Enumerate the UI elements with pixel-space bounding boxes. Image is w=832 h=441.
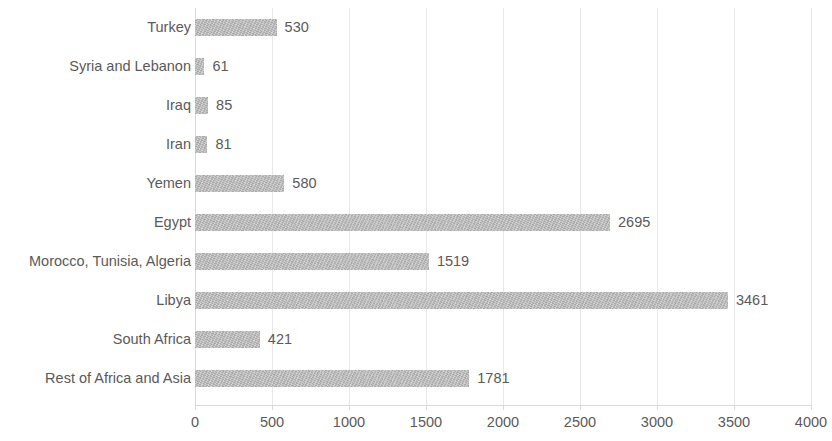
chart-row: South Africa421	[195, 320, 811, 359]
bar-value-label: 85	[216, 86, 232, 125]
x-tick-mark	[272, 405, 273, 410]
chart-row: Iran81	[195, 125, 811, 164]
x-tick-mark	[426, 405, 427, 410]
category-label: Iran	[166, 125, 191, 164]
x-tick-label: 3000	[641, 414, 673, 430]
x-tick-mark	[349, 405, 350, 410]
chart-row: Yemen580	[195, 164, 811, 203]
bar-value-label: 580	[292, 164, 316, 203]
category-label: Iraq	[166, 86, 191, 125]
category-label: Yemen	[146, 164, 191, 203]
x-tick-mark	[811, 405, 812, 410]
x-tick-label: 1000	[333, 414, 365, 430]
x-tick-label: 500	[260, 414, 284, 430]
bar-value-label: 1781	[477, 359, 509, 398]
bar	[195, 331, 260, 348]
bar-value-label: 1519	[437, 242, 469, 281]
bar	[195, 97, 208, 114]
x-tick-mark	[657, 405, 658, 410]
x-tick-mark	[503, 405, 504, 410]
x-tick-label: 0	[191, 414, 199, 430]
x-tick-mark	[580, 405, 581, 410]
bar	[195, 19, 277, 36]
bar	[195, 175, 284, 192]
bar	[195, 370, 469, 387]
bar-value-label: 81	[215, 125, 231, 164]
category-label: Syria and Lebanon	[69, 47, 191, 86]
x-tick-label: 4000	[795, 414, 827, 430]
bar-value-label: 61	[212, 47, 228, 86]
bar-value-label: 2695	[618, 203, 650, 242]
x-tick-mark	[734, 405, 735, 410]
chart-row: Egypt2695	[195, 203, 811, 242]
x-tick-label: 2500	[564, 414, 596, 430]
x-tick-label: 1500	[410, 414, 442, 430]
bar	[195, 214, 610, 231]
category-label: Libya	[156, 281, 191, 320]
chart-row: Libya3461	[195, 281, 811, 320]
bar-value-label: 530	[285, 8, 309, 47]
category-label: Morocco, Tunisia, Algeria	[29, 242, 191, 281]
gridline	[811, 8, 812, 405]
category-label: South Africa	[113, 320, 191, 359]
x-tick-label: 2000	[487, 414, 519, 430]
category-label: Turkey	[147, 8, 191, 47]
bar-chart: Turkey530Syria and Lebanon61Iraq85Iran81…	[0, 0, 832, 441]
chart-row: Turkey530	[195, 8, 811, 47]
bar	[195, 292, 728, 309]
chart-row: Morocco, Tunisia, Algeria1519	[195, 242, 811, 281]
chart-row: Iraq85	[195, 86, 811, 125]
bar	[195, 253, 429, 270]
category-label: Rest of Africa and Asia	[45, 359, 191, 398]
bar-value-label: 421	[268, 320, 292, 359]
x-tick-mark	[195, 405, 196, 410]
bar	[195, 136, 207, 153]
bar-value-label: 3461	[736, 281, 768, 320]
chart-row: Rest of Africa and Asia1781	[195, 359, 811, 398]
x-tick-label: 3500	[718, 414, 750, 430]
category-label: Egypt	[154, 203, 191, 242]
bar	[195, 58, 204, 75]
plot-area: Turkey530Syria and Lebanon61Iraq85Iran81…	[195, 8, 811, 405]
chart-row: Syria and Lebanon61	[195, 47, 811, 86]
